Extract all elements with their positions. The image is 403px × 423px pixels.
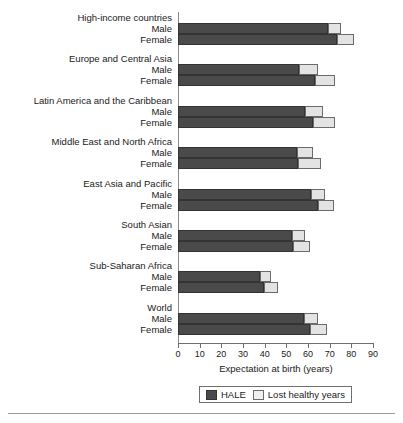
bar-segment-hale <box>178 230 292 241</box>
bar-segment-lost-healthy-years <box>264 282 278 293</box>
row-label-female: Female <box>140 324 172 335</box>
x-axis-tick-label: 50 <box>276 349 296 360</box>
row-label-male: Male <box>151 230 172 241</box>
bar-segment-hale <box>178 23 328 34</box>
x-axis-tick <box>330 344 331 348</box>
bar-row <box>178 271 271 282</box>
bar-segment-lost-healthy-years <box>318 200 334 211</box>
bar-segment-lost-healthy-years <box>310 324 327 335</box>
x-axis-tick <box>200 344 201 348</box>
x-axis-tick-label: 0 <box>168 349 188 360</box>
row-label-female: Female <box>140 200 172 211</box>
bar-row <box>178 324 328 335</box>
bar-row <box>178 75 335 86</box>
legend-swatch-lost-icon <box>253 390 264 400</box>
bar-segment-hale <box>178 282 264 293</box>
bar-segment-hale <box>178 271 260 282</box>
x-axis-tick <box>373 344 374 348</box>
x-axis-tick <box>243 344 244 348</box>
row-label-male: Male <box>151 271 172 282</box>
legend-item-hale: HALE <box>206 389 246 400</box>
bar-row <box>178 241 310 252</box>
group-label-world: World <box>147 302 172 313</box>
bar-segment-lost-healthy-years <box>292 230 305 241</box>
row-label-female: Female <box>140 158 172 169</box>
x-axis-tick-label: 70 <box>320 349 340 360</box>
row-label-male: Male <box>151 106 172 117</box>
legend-label-hale: HALE <box>221 389 246 400</box>
bar-row <box>178 147 313 158</box>
row-label-male: Male <box>151 189 172 200</box>
group-label-europe-and-central-asia: Europe and Central Asia <box>69 53 172 64</box>
bar-segment-hale <box>178 75 315 86</box>
bar-segment-hale <box>178 324 310 335</box>
bar-segment-lost-healthy-years <box>293 241 310 252</box>
bar-segment-lost-healthy-years <box>299 64 317 75</box>
hale-stacked-bar-chart: High-income countriesMaleFemaleEurope an… <box>0 0 403 423</box>
row-label-male: Male <box>151 23 172 34</box>
bar-segment-lost-healthy-years <box>315 75 336 86</box>
bar-segment-lost-healthy-years <box>297 147 313 158</box>
legend-label-lost-healthy-years: Lost healthy years <box>268 389 345 400</box>
bar-segment-hale <box>178 147 297 158</box>
row-label-female: Female <box>140 282 172 293</box>
bar-row <box>178 158 321 169</box>
bar-segment-lost-healthy-years <box>311 189 325 200</box>
bar-row <box>178 230 305 241</box>
bar-segment-hale <box>178 241 293 252</box>
bar-row <box>178 34 354 45</box>
bar-segment-hale <box>178 313 304 324</box>
x-axis-tick-label: 30 <box>233 349 253 360</box>
bar-row <box>178 106 323 117</box>
category-label-column: High-income countriesMaleFemaleEurope an… <box>0 12 172 342</box>
x-axis-tick <box>265 344 266 348</box>
bar-row <box>178 313 318 324</box>
x-axis-tick-label: 40 <box>255 349 275 360</box>
bar-segment-hale <box>178 64 299 75</box>
x-axis-tick-label: 20 <box>211 349 231 360</box>
bar-segment-lost-healthy-years <box>298 158 321 169</box>
bar-segment-hale <box>178 34 337 45</box>
group-label-high-income-countries: High-income countries <box>77 12 172 23</box>
bar-segment-hale <box>178 117 313 128</box>
row-label-female: Female <box>140 34 172 45</box>
bar-segment-hale <box>178 106 305 117</box>
bar-segment-lost-healthy-years <box>305 106 323 117</box>
x-axis-title: Expectation at birth (years) <box>178 363 374 374</box>
x-axis-tick <box>308 344 309 348</box>
bar-segment-lost-healthy-years <box>304 313 318 324</box>
row-label-male: Male <box>151 147 172 158</box>
bar-segment-lost-healthy-years <box>313 117 335 128</box>
bar-row <box>178 64 318 75</box>
row-label-male: Male <box>151 64 172 75</box>
plot-area <box>178 12 373 342</box>
group-label-south-asian: South Asian <box>121 219 172 230</box>
bar-segment-hale <box>178 158 298 169</box>
legend-swatch-hale-icon <box>206 390 217 400</box>
x-axis-tick-label: 80 <box>341 349 361 360</box>
bar-segment-hale <box>178 200 318 211</box>
chart-legend: HALE Lost healthy years <box>199 386 352 403</box>
bar-row <box>178 117 335 128</box>
group-label-east-asia-and-pacific: East Asia and Pacific <box>83 178 172 189</box>
x-axis-tick-label: 60 <box>298 349 318 360</box>
row-label-male: Male <box>151 313 172 324</box>
group-label-latin-america-and-the-caribbean: Latin America and the Caribbean <box>34 95 172 106</box>
bar-row <box>178 282 278 293</box>
bar-segment-lost-healthy-years <box>337 34 353 45</box>
row-label-female: Female <box>140 117 172 128</box>
x-axis-tick <box>178 344 179 348</box>
x-axis-tick <box>286 344 287 348</box>
bar-segment-lost-healthy-years <box>328 23 341 34</box>
x-axis-tick-label: 90 <box>363 349 383 360</box>
bar-segment-lost-healthy-years <box>260 271 271 282</box>
group-label-sub-saharan-africa: Sub-Saharan Africa <box>90 260 172 271</box>
bar-segment-hale <box>178 189 311 200</box>
x-axis-tick-label: 10 <box>190 349 210 360</box>
bar-row <box>178 23 341 34</box>
x-axis-tick <box>351 344 352 348</box>
bar-row <box>178 189 325 200</box>
legend-item-lost-healthy-years: Lost healthy years <box>253 389 345 400</box>
row-label-female: Female <box>140 75 172 86</box>
bar-row <box>178 200 334 211</box>
